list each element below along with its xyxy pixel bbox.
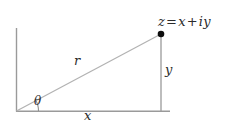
label-plus-sign: + — [186, 14, 199, 29]
label-real-part-x: x — [84, 109, 91, 122]
label-real-symbol: x — [178, 14, 186, 29]
label-radius-r: r — [74, 54, 80, 67]
label-angle-theta: θ — [34, 95, 41, 107]
argand-diagram-figure: z=x+iy r y x θ — [0, 0, 231, 126]
label-imaginary-part-y: y — [165, 63, 172, 76]
point-marker-z — [158, 31, 165, 38]
label-z-symbol: z — [158, 14, 165, 29]
label-imaginary-term: iy — [199, 14, 211, 29]
label-point-z: z=x+iy — [158, 15, 211, 28]
label-equals-sign: = — [165, 14, 178, 29]
